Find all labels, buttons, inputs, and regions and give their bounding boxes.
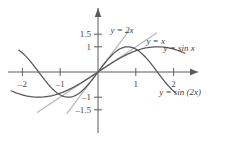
curve-label: y = sin (2x) <box>158 87 201 97</box>
math-plot-figure: –2–112 1.51–1–1.5 y = 2xy = xy = sin xy … <box>0 0 235 141</box>
curve-label: y = 2x <box>109 25 133 35</box>
y-tick-label: 1.5 <box>80 29 92 39</box>
x-tick-label: –2 <box>17 79 27 89</box>
y-tick-label: –1 <box>81 92 91 102</box>
curve-annotations: y = 2xy = xy = sin xy = sin (2x) <box>109 25 201 97</box>
x-axis-tick-labels: –2–112 <box>17 79 176 89</box>
x-tick-label: 1 <box>134 79 139 89</box>
curve-label: y = x <box>145 36 165 46</box>
x-axis-arrowhead <box>190 69 198 76</box>
plot-svg: –2–112 1.51–1–1.5 y = 2xy = xy = sin xy … <box>0 0 235 141</box>
axes-group <box>8 8 198 133</box>
y-tick-label: –1.5 <box>74 105 91 115</box>
x-tick-label: –1 <box>55 79 65 89</box>
curve-label: y = sin x <box>162 43 194 53</box>
y-tick-label: 1 <box>87 42 92 52</box>
y-axis-arrowhead <box>95 8 101 17</box>
